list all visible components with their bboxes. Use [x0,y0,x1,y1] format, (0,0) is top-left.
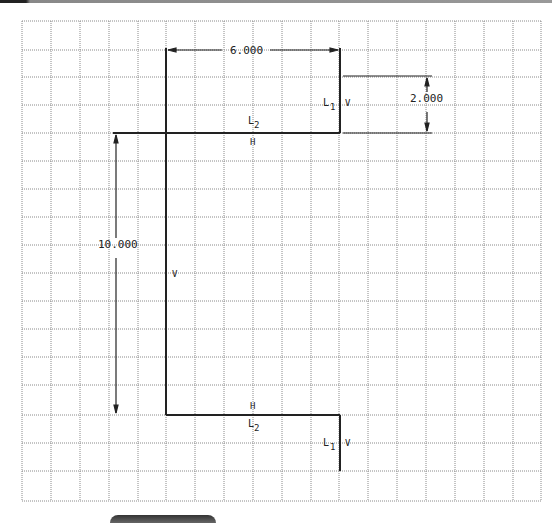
bottom-l2-sub: 2 [254,423,259,433]
top-h-label: H [250,137,255,147]
bottom-v-label: V [345,438,351,448]
bottom-l1-sub: 1 [330,442,335,452]
profile-geometry [113,48,340,471]
constraint-labels: L 2 H L 1 V V H L 2 L 1 V [172,97,351,452]
dimension-left-height-text: 10.000 [98,238,138,251]
dimension-right-height-text: 2.000 [410,92,443,105]
top-v-label: V [345,98,351,108]
dimension-left-height[interactable] [114,135,118,413]
mid-v-label: V [172,269,178,279]
bottom-l1-label: L [323,437,329,448]
bottom-tab-button[interactable] [110,515,216,523]
bottom-h-label: H [250,401,255,411]
top-l2-sub: 2 [254,120,259,130]
grid [22,21,541,501]
top-l1-sub: 1 [330,102,335,112]
dimension-width-text: 6.000 [230,44,263,57]
top-l1-label: L [323,97,329,108]
